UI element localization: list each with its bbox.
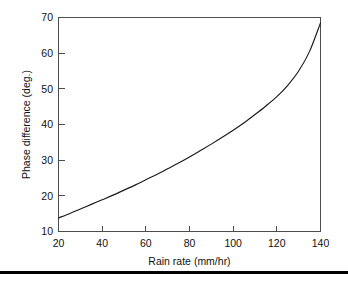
y-tick-label-30: 30 xyxy=(41,154,53,166)
y-tick-label-40: 40 xyxy=(41,118,53,130)
y-axis-title: Phase difference (deg.) xyxy=(20,70,32,179)
frame-rect xyxy=(59,18,321,232)
y-tick-labels: 10 20 30 40 50 60 70 xyxy=(41,11,53,237)
plot-frame xyxy=(59,18,321,232)
line-chart: 10 20 30 40 50 60 70 20 40 60 80 100 120… xyxy=(0,0,348,283)
y-tick-label-70: 70 xyxy=(41,11,53,23)
x-tick-label-40: 40 xyxy=(96,237,108,249)
x-tick-marks xyxy=(59,226,321,232)
bottom-horizontal-rule xyxy=(0,271,348,274)
data-series-line xyxy=(59,23,321,218)
y-tick-label-60: 60 xyxy=(41,47,53,59)
y-tick-label-10: 10 xyxy=(41,225,53,237)
y-tick-label-50: 50 xyxy=(41,83,53,95)
x-tick-label-140: 140 xyxy=(312,237,330,249)
x-tick-label-80: 80 xyxy=(184,237,196,249)
x-tick-label-120: 120 xyxy=(268,237,286,249)
x-tick-labels: 20 40 60 80 100 120 140 xyxy=(53,237,330,249)
x-tick-label-20: 20 xyxy=(53,237,65,249)
y-tick-label-20: 20 xyxy=(41,190,53,202)
y-tick-marks xyxy=(59,18,65,232)
figure-panel: 10 20 30 40 50 60 70 20 40 60 80 100 120… xyxy=(0,0,348,283)
x-tick-label-60: 60 xyxy=(140,237,152,249)
x-tick-label-100: 100 xyxy=(224,237,242,249)
x-axis-title: Rain rate (mm/hr) xyxy=(148,255,230,267)
